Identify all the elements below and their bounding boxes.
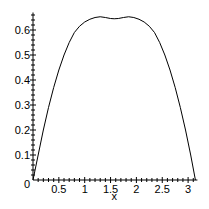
series — [33, 17, 195, 180]
x-tick-label: 2 — [133, 183, 139, 195]
x-tick-label: 3 — [185, 183, 191, 195]
tick-labels: 0.511.522.530.10.20.30.40.50.60x — [15, 24, 191, 202]
chart: 0.511.522.530.10.20.30.40.50.60x — [0, 0, 209, 209]
x-axis-label: x — [111, 190, 117, 202]
ticks — [30, 15, 193, 183]
y-tick-label: 0.4 — [15, 74, 30, 86]
axes — [33, 13, 197, 181]
origin-label: 0 — [24, 178, 30, 190]
y-tick-label: 0.1 — [15, 149, 30, 161]
y-tick-label: 0.5 — [15, 49, 30, 61]
x-tick-label: 2.5 — [155, 183, 170, 195]
y-tick-label: 0.6 — [15, 24, 30, 36]
y-tick-label: 0.2 — [15, 124, 30, 136]
x-tick-label: 1 — [82, 183, 88, 195]
series-line — [33, 17, 195, 180]
x-tick-label: 0.5 — [51, 183, 66, 195]
y-tick-label: 0.3 — [15, 99, 30, 111]
